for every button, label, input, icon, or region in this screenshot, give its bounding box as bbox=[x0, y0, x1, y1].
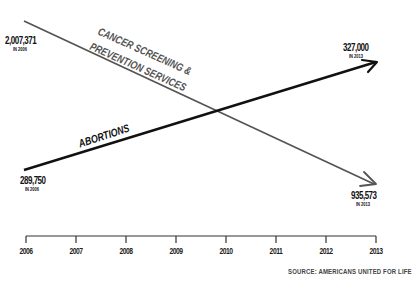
x-tick-2009: 2009 bbox=[161, 246, 191, 256]
x-tick-2012: 2012 bbox=[311, 246, 341, 256]
source-note: SOURCE: AMERICANS UNITED FOR LIFE bbox=[288, 267, 412, 276]
abortions-line bbox=[24, 62, 376, 170]
cancer-start-year: IN 2006 bbox=[13, 46, 27, 52]
abortion-end-value: 327,000 bbox=[343, 43, 369, 53]
x-tick-2010: 2010 bbox=[211, 246, 241, 256]
cancer-end-year: IN 2013 bbox=[356, 201, 370, 207]
x-tick-2007: 2007 bbox=[61, 246, 91, 256]
cancer-screening-line bbox=[24, 21, 374, 184]
abortion-start-year: IN 2006 bbox=[25, 186, 39, 192]
x-tick-2013: 2013 bbox=[361, 246, 391, 256]
x-tick-2011: 2011 bbox=[261, 246, 291, 256]
abortion-start-value: 289,750 bbox=[20, 176, 46, 186]
abortion-end-year: IN 2013 bbox=[349, 53, 363, 59]
x-tick-2008: 2008 bbox=[111, 246, 141, 256]
cancer-start-value: 2,007,371 bbox=[5, 36, 36, 46]
x-tick-2006: 2006 bbox=[11, 246, 41, 256]
x-axis-ticks bbox=[26, 236, 376, 243]
cancer-end-value: 935,573 bbox=[351, 191, 377, 201]
